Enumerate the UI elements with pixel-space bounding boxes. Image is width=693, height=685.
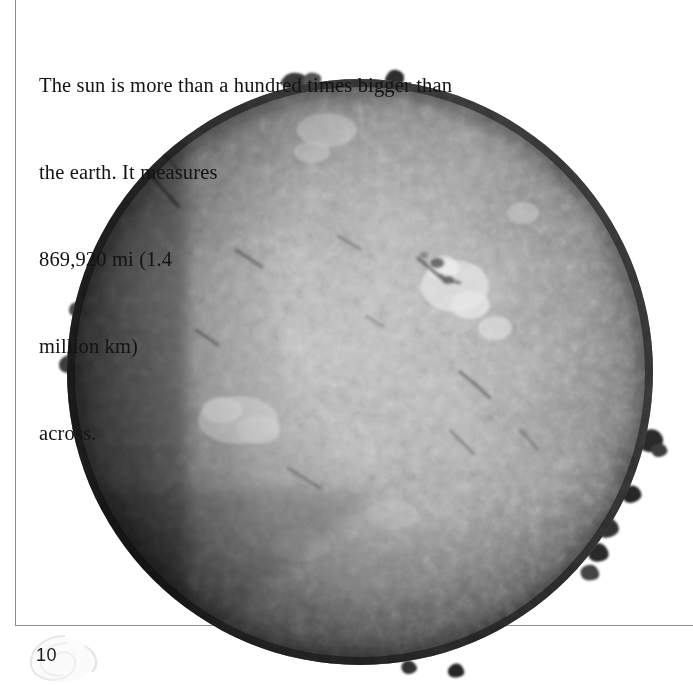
caption-line-2: the earth. It measures	[39, 158, 584, 187]
caption-line-3: 869,920 mi (1.4	[39, 245, 584, 274]
book-page: The sun is more than a hundred times big…	[0, 0, 693, 685]
caption-line-4: million km)	[39, 332, 584, 361]
caption-line-1: The sun is more than a hundred times big…	[39, 71, 584, 100]
caption-line-5: across.	[39, 419, 584, 448]
page-number: 10	[36, 645, 57, 666]
footer-watermark	[22, 630, 108, 685]
page-caption: The sun is more than a hundred times big…	[39, 13, 584, 506]
